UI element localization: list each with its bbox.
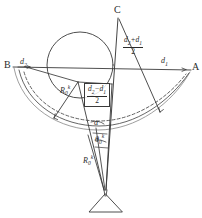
- label-d1: d1: [161, 57, 168, 67]
- R0k-upper-sub: 0: [65, 90, 68, 96]
- ray-sum-half: [119, 19, 160, 112]
- label-d2-sub: 2: [24, 62, 27, 68]
- R0k-upper-sup: k: [68, 84, 70, 90]
- fraction-sum-denominator: 2: [123, 48, 143, 56]
- theta-lower-tick: [95, 147, 108, 148]
- point-label-A: A: [192, 62, 199, 72]
- fraction-sum-numerator: d2+d1: [123, 36, 143, 46]
- R0k-lower-sub: 0: [88, 160, 91, 166]
- fraction-diff-half: d2−d1 2: [84, 83, 110, 107]
- diagram-canvas: C B A d2 d1 d2+d1 2 d2−d1 2 R0k R0k α θ0…: [0, 0, 202, 218]
- point-label-C: C: [114, 5, 121, 15]
- point-label-B: B: [4, 60, 11, 70]
- label-alpha: α: [94, 119, 98, 127]
- label-R0k-lower: R0k: [83, 155, 93, 167]
- ray-sum-arrowhead: [159, 108, 164, 112]
- R0k-lower-sup: k: [91, 154, 93, 160]
- theta-sub: 0: [99, 139, 102, 145]
- geometry-figure: [0, 0, 202, 218]
- chord-BA: [13, 67, 191, 70]
- label-theta0k: θ0k: [95, 134, 104, 146]
- fraction-diff-numerator: d2−d1: [87, 85, 107, 95]
- label-R0k-upper: R0k: [60, 85, 70, 97]
- segment-chord-to-vertex: [26, 67, 78, 82]
- fraction-diff-denominator: 2: [87, 97, 107, 105]
- label-d1-sub: 1: [165, 61, 168, 67]
- theta-sup: k: [102, 133, 104, 139]
- fraction-sum-half: d2+d1 2: [123, 36, 143, 56]
- diff-b-sub: 1: [103, 89, 106, 95]
- support-triangle: [89, 194, 122, 212]
- label-d2: d2: [20, 58, 27, 68]
- sum-b-sub: 1: [139, 40, 142, 46]
